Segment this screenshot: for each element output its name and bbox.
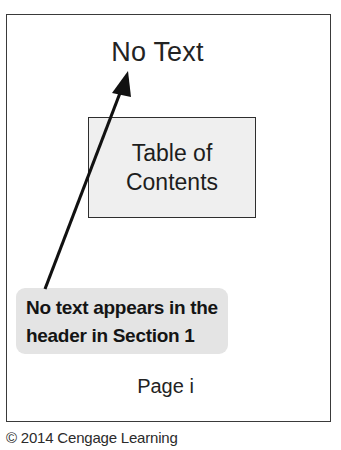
callout-line-2: header in Section 1: [26, 322, 218, 350]
header-illustration-figure: No Text Table of Contents No text appear…: [0, 0, 341, 450]
page-number-label: Page i: [0, 374, 341, 398]
annotation-callout: No text appears in the header in Section…: [16, 288, 228, 354]
copyright-credit: © 2014 Cengage Learning: [6, 429, 178, 447]
table-of-contents-box: Table of Contents: [88, 117, 256, 218]
header-no-text-label: No Text: [0, 36, 341, 68]
toc-line-2: Contents: [126, 168, 218, 197]
document-page: [6, 14, 331, 422]
callout-line-1: No text appears in the: [26, 294, 218, 322]
toc-line-1: Table of: [132, 139, 213, 168]
